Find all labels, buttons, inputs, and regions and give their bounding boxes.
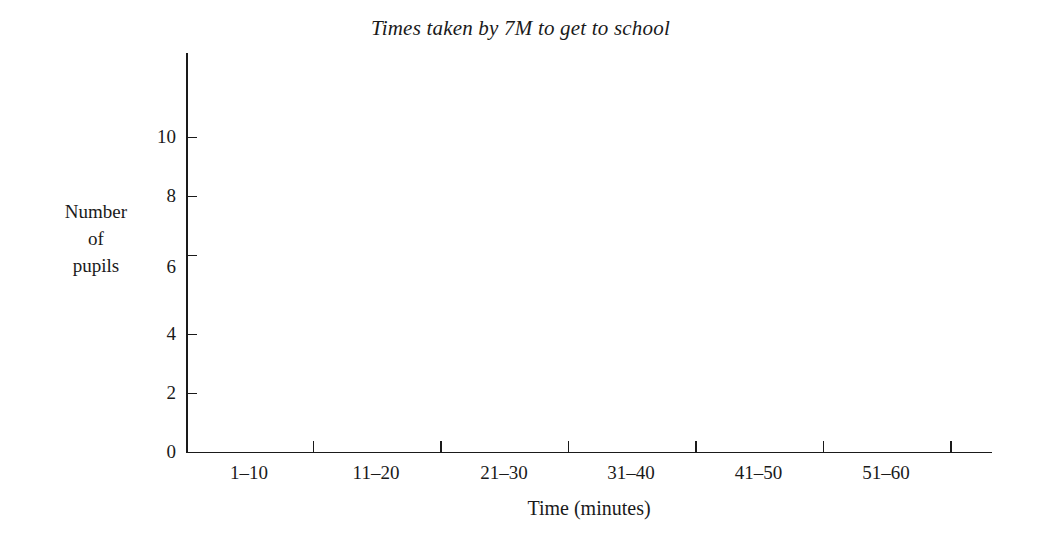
y-tick-label-10: 10 — [136, 127, 176, 146]
x-category-label-31-40: 31–40 — [607, 462, 655, 484]
y-tick-4 — [186, 334, 197, 336]
y-tick-8 — [186, 196, 197, 198]
x-tick-5 — [823, 441, 825, 452]
chart-title: Times taken by 7M to get to school — [0, 16, 1041, 41]
x-category-label-41-50: 41–50 — [735, 462, 783, 484]
x-tick-3 — [568, 441, 570, 452]
y-tick-label-4: 4 — [136, 324, 176, 343]
x-tick-1 — [313, 441, 315, 452]
x-axis-line — [186, 452, 992, 454]
y-tick-10 — [186, 137, 197, 139]
x-category-label-11-20: 11–20 — [353, 462, 400, 484]
x-tick-2 — [440, 441, 442, 452]
plot-area — [187, 53, 992, 451]
y-axis-title-line-3: pupils — [36, 253, 156, 280]
x-category-label-51-60: 51–60 — [862, 462, 910, 484]
x-category-label-1-10: 1–10 — [230, 462, 268, 484]
y-tick-6 — [186, 255, 197, 257]
x-axis-title: Time (minutes) — [186, 497, 992, 520]
x-tick-0 — [186, 441, 188, 452]
y-tick-label-0: 0 — [136, 442, 176, 461]
y-axis-title-line-1: Number — [36, 199, 156, 226]
y-tick-2 — [186, 393, 197, 395]
x-tick-4 — [695, 441, 697, 452]
x-category-label-21-30: 21–30 — [480, 462, 528, 484]
x-tick-6 — [950, 441, 952, 452]
chart-figure: Times taken by 7M to get to school 10 8 … — [0, 0, 1041, 554]
y-axis-title: Number of pupils — [36, 199, 156, 280]
y-axis-title-line-2: of — [36, 226, 156, 253]
y-tick-label-2: 2 — [136, 383, 176, 402]
